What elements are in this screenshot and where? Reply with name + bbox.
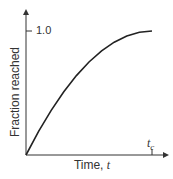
x-axis-title: Time, t <box>74 158 110 173</box>
y-tick-label: 1.0 <box>36 24 51 36</box>
y-axis-title: Fraction reached <box>8 47 22 137</box>
x-tick-label: tc <box>147 136 154 152</box>
data-curve <box>26 31 152 155</box>
